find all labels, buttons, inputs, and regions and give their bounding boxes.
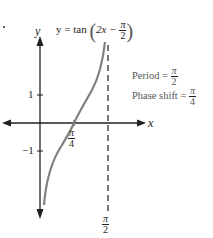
- period-fraction: π 2: [171, 66, 178, 87]
- y-axis: [37, 36, 44, 219]
- period-label: Period =: [132, 70, 168, 81]
- phase-shift-label: Phase shift =: [132, 90, 186, 101]
- x-axis-right-arrow-icon: [137, 120, 146, 127]
- equation-inner: 2x −: [96, 23, 117, 35]
- y-axis-down-arrow-icon: [37, 209, 44, 219]
- phase-frac-den: 4: [189, 97, 196, 107]
- asymptote-frac-den: 2: [102, 225, 109, 235]
- asymptote-label-pi-over-2: π 2: [102, 214, 109, 235]
- x-axis-left-arrow-icon: [2, 120, 11, 127]
- phase-shift-fraction: π 4: [189, 86, 196, 107]
- y-tick-label-neg1: −1: [22, 145, 34, 156]
- x-tick-frac-den: 4: [68, 139, 75, 149]
- equation-label: y = tan (2x − π 2 ): [56, 20, 133, 41]
- equation-lhs: y = tan: [56, 23, 87, 35]
- x-tick-label-pi-over-4: π 4: [68, 128, 75, 149]
- x-axis-label: x: [148, 117, 153, 129]
- period-annotation: Period = π 2: [132, 66, 178, 87]
- asymptote-fraction: π 2: [102, 214, 109, 235]
- equation-close-paren: ): [126, 20, 133, 42]
- phase-shift-annotation: Phase shift = π 4: [132, 86, 196, 107]
- y-axis-label: y: [35, 25, 40, 37]
- x-tick-fraction: π 4: [68, 128, 75, 149]
- y-tick-label-1: 1: [28, 89, 34, 100]
